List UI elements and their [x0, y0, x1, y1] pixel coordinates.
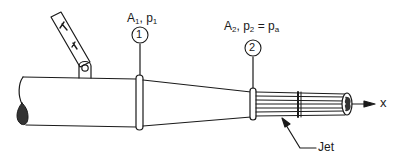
valve-handle: [51, 12, 91, 78]
converging-nozzle: [143, 80, 251, 126]
pressure-2-symbol: p: [243, 19, 250, 33]
equals-sign: =: [258, 19, 265, 33]
section-1-number: 1: [136, 29, 142, 40]
jet-leader-arrowhead-icon: [282, 118, 290, 127]
pipe-body: [19, 77, 136, 127]
area-1-symbol: A: [127, 11, 135, 25]
pressure-2-subscript: 2: [250, 25, 254, 34]
nozzle-jet-diagram: A1, p1 1 A2, p2 = pa 2 x Jet: [0, 0, 398, 162]
ambient-pressure-subscript: a: [275, 25, 279, 34]
x-axis-arrowhead-icon: [364, 101, 375, 107]
section-2-number: 2: [249, 42, 255, 53]
section-1-label: A1, p1: [127, 12, 157, 26]
area-2-symbol: A: [224, 19, 232, 33]
area-1-subscript: 1: [135, 17, 139, 26]
area-2-subscript: 2: [232, 25, 236, 34]
x-axis-label: x: [380, 96, 387, 109]
jet-label: Jet: [318, 141, 334, 153]
jet-leader-line: [286, 125, 316, 148]
pipe-break-shading-icon: [17, 103, 28, 125]
ambient-pressure-symbol: p: [268, 19, 275, 33]
diagram-drawing: [0, 0, 398, 162]
pressure-1-symbol: p: [146, 11, 153, 25]
section-2-label: A2, p2 = pa: [224, 20, 279, 34]
flange-section-2: [250, 88, 256, 120]
pressure-1-subscript: 1: [153, 17, 157, 26]
jet-streamlines: [256, 92, 345, 117]
flange-section-1: [136, 75, 143, 130]
